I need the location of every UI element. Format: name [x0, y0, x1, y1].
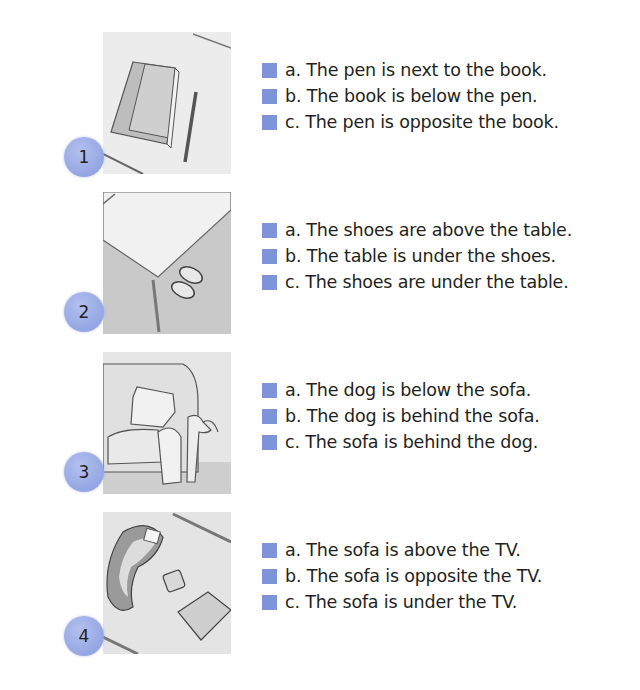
exercise-item-3: 3 a. The dog is below the sofa. b. The d…: [0, 320, 640, 480]
shoes-under-table-illustration: [103, 192, 231, 334]
option-b[interactable]: b. The book is below the pen.: [262, 83, 559, 109]
option-square-icon: [262, 63, 277, 78]
option-b[interactable]: b. The sofa is opposite the TV.: [262, 563, 542, 589]
option-square-icon: [262, 595, 277, 610]
book-and-pen-illustration: [103, 32, 231, 174]
exercise-item-1: 1 a. The pen is next to the book. b. The…: [0, 0, 640, 160]
option-b[interactable]: b. The table is under the shoes.: [262, 243, 572, 269]
option-a[interactable]: a. The pen is next to the book.: [262, 57, 559, 83]
item-number-badge: 4: [64, 616, 104, 656]
exercise-item-2: 2 a. The shoes are above the table. b. T…: [0, 160, 640, 320]
options-list: a. The dog is below the sofa. b. The dog…: [262, 377, 540, 455]
option-c[interactable]: c. The sofa is under the TV.: [262, 589, 542, 615]
option-square-icon: [262, 543, 277, 558]
option-square-icon: [262, 249, 277, 264]
option-square-icon: [262, 223, 277, 238]
options-list: a. The shoes are above the table. b. The…: [262, 217, 572, 295]
option-square-icon: [262, 409, 277, 424]
dog-behind-sofa-illustration: [103, 352, 231, 494]
option-c[interactable]: c. The pen is opposite the book.: [262, 109, 559, 135]
option-square-icon: [262, 115, 277, 130]
option-c[interactable]: c. The sofa is behind the dog.: [262, 429, 540, 455]
sofa-opposite-tv-illustration: [103, 512, 231, 654]
option-square-icon: [262, 275, 277, 290]
option-square-icon: [262, 435, 277, 450]
option-a[interactable]: a. The shoes are above the table.: [262, 217, 572, 243]
option-a[interactable]: a. The sofa is above the TV.: [262, 537, 542, 563]
options-list: a. The sofa is above the TV. b. The sofa…: [262, 537, 542, 615]
option-square-icon: [262, 89, 277, 104]
exercise-item-4: 4 a. The sofa is above the TV. b. The so…: [0, 480, 640, 640]
option-b[interactable]: b. The dog is behind the sofa.: [262, 403, 540, 429]
option-a[interactable]: a. The dog is below the sofa.: [262, 377, 540, 403]
option-square-icon: [262, 383, 277, 398]
option-c[interactable]: c. The shoes are under the table.: [262, 269, 572, 295]
option-square-icon: [262, 569, 277, 584]
options-list: a. The pen is next to the book. b. The b…: [262, 57, 559, 135]
